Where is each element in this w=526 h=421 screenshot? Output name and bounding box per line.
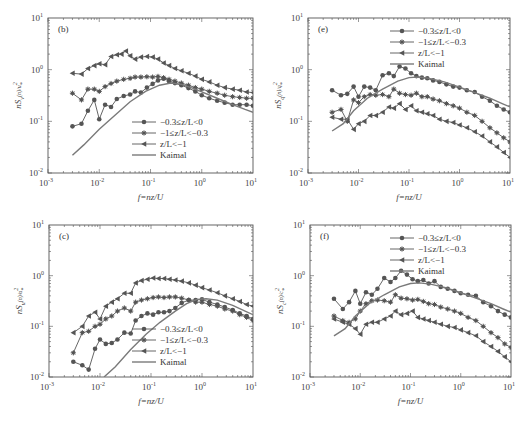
data-marker — [380, 109, 385, 115]
data-marker — [145, 85, 150, 90]
data-marker — [380, 92, 385, 97]
data-marker — [339, 93, 344, 98]
data-marker — [207, 287, 212, 293]
data-marker — [409, 71, 414, 76]
legend-entry: Kaimal — [418, 266, 445, 276]
data-marker — [71, 359, 76, 364]
data-marker — [370, 292, 375, 297]
svg-text:10-2: 10-2 — [291, 371, 305, 382]
data-marker — [139, 314, 144, 319]
data-marker — [501, 107, 506, 112]
data-marker — [138, 74, 143, 79]
data-marker — [96, 61, 101, 67]
data-marker — [92, 87, 97, 92]
data-marker — [410, 308, 415, 314]
data-marker — [86, 313, 91, 319]
data-marker — [444, 101, 449, 106]
data-marker — [404, 296, 409, 301]
data-marker — [364, 290, 369, 295]
data-marker — [92, 309, 97, 315]
data-marker — [351, 127, 356, 133]
data-marker — [92, 324, 97, 329]
data-marker — [351, 97, 356, 102]
data-marker — [230, 94, 235, 99]
data-marker — [464, 125, 469, 131]
data-marker — [128, 331, 133, 336]
data-marker — [509, 315, 514, 320]
data-marker — [80, 330, 85, 335]
data-marker — [421, 316, 426, 322]
legend-marker — [142, 327, 147, 332]
data-marker — [109, 105, 114, 110]
x-tick-labels: 10-310-210-1100101 — [301, 381, 515, 392]
svg-text:101: 101 — [31, 12, 43, 23]
data-marker — [237, 87, 242, 93]
data-marker — [172, 66, 177, 72]
data-marker — [114, 52, 119, 58]
data-marker — [502, 341, 507, 346]
data-marker — [132, 56, 137, 62]
data-marker — [85, 87, 90, 92]
data-marker — [173, 277, 178, 283]
legend-marker — [399, 39, 404, 44]
data-marker — [151, 312, 156, 317]
data-marker — [97, 322, 102, 327]
data-marker — [237, 312, 242, 317]
data-marker — [103, 316, 108, 321]
data-marker — [375, 287, 380, 292]
data-marker — [193, 73, 198, 79]
series-2 — [329, 101, 512, 160]
legend-entry: −1≤z/L<−0.3 — [160, 335, 208, 345]
data-marker — [430, 96, 435, 101]
data-marker — [404, 311, 409, 317]
data-marker — [391, 87, 396, 92]
svg-text:10-3: 10-3 — [301, 381, 315, 392]
data-marker — [150, 82, 155, 87]
data-marker — [139, 297, 144, 302]
data-marker — [398, 312, 403, 318]
data-marker — [79, 97, 84, 102]
data-marker — [156, 310, 161, 315]
figure-canvas: 10-310-210-110010110-210-1100101f=nz/UnS… — [0, 0, 526, 421]
data-marker — [71, 350, 76, 355]
data-marker — [481, 324, 486, 329]
panel-f: 10-310-210-110010110-210-1100101f=nz/UnS… — [274, 219, 515, 406]
svg-text:100: 100 — [291, 64, 303, 75]
data-marker — [230, 86, 235, 92]
data-marker — [179, 278, 184, 284]
data-marker — [382, 276, 387, 281]
data-marker — [403, 66, 408, 71]
data-marker — [133, 300, 138, 305]
y-axis-label: nSu(n)/u2* — [13, 288, 26, 315]
svg-text:100: 100 — [293, 270, 305, 281]
legend-entry: Kaimal — [418, 59, 445, 69]
data-marker — [122, 330, 127, 335]
data-marker — [450, 120, 455, 126]
data-marker — [437, 98, 442, 103]
plot-frame — [49, 225, 253, 377]
data-marker — [161, 276, 166, 282]
data-marker — [199, 285, 204, 291]
data-marker — [199, 93, 204, 98]
data-marker — [79, 121, 84, 126]
data-marker — [115, 337, 120, 342]
svg-text:101: 101 — [293, 219, 305, 230]
svg-text:10-3: 10-3 — [40, 381, 54, 392]
data-marker — [237, 299, 242, 305]
data-marker — [162, 310, 167, 315]
data-marker — [386, 94, 391, 99]
legend-entry: −1≤z/L<−0.3 — [418, 37, 466, 47]
data-marker — [207, 89, 212, 94]
data-marker — [97, 89, 102, 94]
data-marker — [451, 103, 456, 108]
data-marker — [388, 313, 393, 319]
legend-entry: Kaimal — [160, 150, 187, 160]
svg-text:100: 100 — [31, 64, 43, 75]
data-marker — [397, 64, 402, 69]
data-marker — [375, 320, 380, 326]
data-marker — [179, 68, 184, 74]
data-marker — [150, 275, 155, 281]
data-marker — [473, 333, 478, 339]
data-marker — [494, 130, 499, 135]
data-marker — [507, 139, 512, 144]
